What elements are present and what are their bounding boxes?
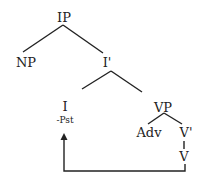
node-i: I (62, 100, 67, 113)
node-np: NP (16, 56, 36, 69)
node-vp: VP (154, 101, 172, 114)
syntax-tree-diagram: IP NP I' I -Pst VP Adv V' V (0, 0, 203, 183)
node-adv: Adv (136, 126, 161, 139)
node-v: V (179, 150, 188, 163)
node-i-bar: I' (103, 56, 112, 69)
branch-ip-np (23, 25, 63, 52)
branch-ibar-i (82, 71, 111, 89)
node-i-feature: -Pst (56, 116, 73, 125)
tree-branches (0, 0, 203, 183)
movement-arrow-line (64, 137, 185, 171)
arrowhead-icon (61, 133, 68, 140)
branch-ip-ibar (63, 25, 103, 53)
branch-ibar-vp (111, 71, 142, 92)
node-v-bar: V' (180, 126, 193, 139)
node-ip: IP (57, 11, 71, 24)
